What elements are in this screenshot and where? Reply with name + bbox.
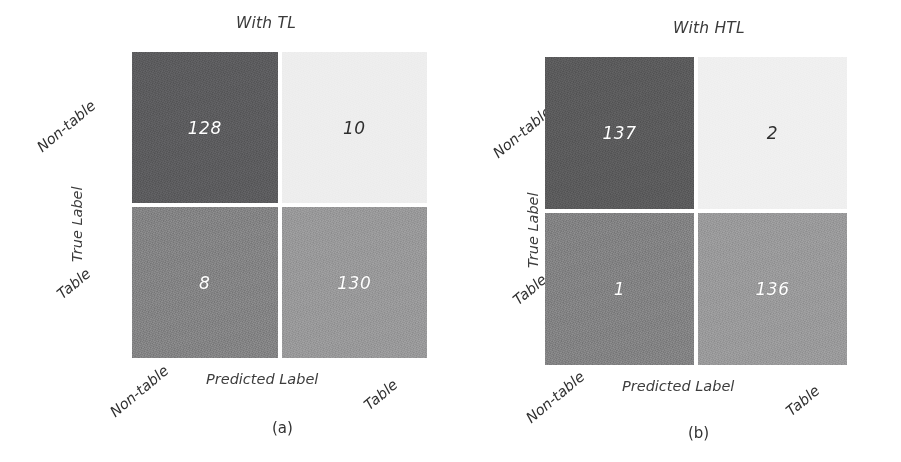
panel-a-cell-nontable-nontable: 128 [132, 52, 278, 203]
panel-a-cell-value-128: 128 [188, 118, 222, 138]
panel-a-cell-table-table: 130 [282, 207, 428, 358]
panel-a-confusion-matrix: 128 10 8 130 [132, 52, 427, 358]
panel-a-ytick-table: Table [54, 265, 94, 302]
panel-a-title: With TL [236, 14, 296, 32]
panel-b-cell-table-table: 136 [698, 213, 847, 365]
panel-a-cell-table-nontable: 8 [132, 207, 278, 358]
panel-b-cell-value-136: 136 [756, 279, 790, 299]
panel-a-y-axis-label: True Label [69, 186, 85, 262]
figure-confusion-matrices: With TL True Label Non-table Table 128 1… [0, 0, 901, 462]
panel-a-cell-value-8: 8 [199, 273, 210, 293]
panel-a-cell-value-130: 130 [337, 273, 371, 293]
panel-b-subcaption: (b) [688, 424, 709, 442]
panel-b-cell-value-137: 137 [603, 123, 637, 143]
panel-b-confusion-matrix: 137 2 1 136 [545, 57, 847, 365]
panel-a-xtick-non-table: Non-table [107, 362, 172, 420]
panel-b-title: With HTL [673, 19, 745, 37]
panel-b-xtick-non-table: Non-table [523, 368, 588, 426]
panel-a-cell-value-10: 10 [343, 118, 366, 138]
panel-a-cell-nontable-table: 10 [282, 52, 428, 203]
panel-b-cell-nontable-nontable: 137 [545, 57, 694, 209]
panel-b-cell-value-2: 2 [767, 123, 778, 143]
panel-b-y-axis-label: True Label [525, 192, 541, 268]
panel-b-x-axis-label: Predicted Label [622, 378, 734, 394]
panel-b-cell-value-1: 1 [614, 279, 625, 299]
panel-b-cell-table-nontable: 1 [545, 213, 694, 365]
panel-a-ytick-non-table: Non-table [34, 97, 99, 155]
panel-a-x-axis-label: Predicted Label [206, 371, 318, 387]
panel-b-ytick-table: Table [510, 271, 550, 308]
panel-b: With HTL True Label Non-table Table 137 … [450, 0, 901, 462]
panel-a-subcaption: (a) [272, 419, 293, 437]
panel-a: With TL True Label Non-table Table 128 1… [0, 0, 450, 462]
panel-a-xtick-table: Table [361, 376, 401, 413]
panel-b-xtick-table: Table [783, 382, 823, 419]
panel-b-cell-nontable-table: 2 [698, 57, 847, 209]
